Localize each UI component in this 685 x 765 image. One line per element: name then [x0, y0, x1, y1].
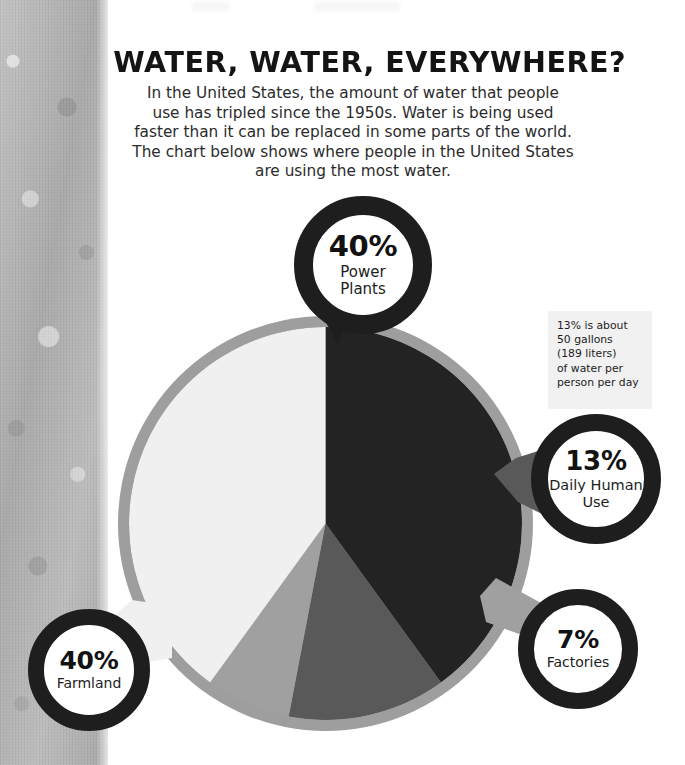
- callout-content-factories: 7% Factories: [518, 589, 638, 709]
- callout-label-line1-daily-human-use: Daily Human: [549, 477, 643, 493]
- pie-disc: [129, 327, 522, 720]
- callout-percent-power-plants: 40%: [329, 232, 398, 261]
- intro-line-3: faster than it can be replaced in some p…: [118, 123, 588, 143]
- callout-percent-daily-human-use: 13%: [565, 448, 626, 474]
- callout-percent-factories: 7%: [557, 627, 599, 652]
- callout-percent-farmland: 40%: [60, 648, 119, 673]
- callout-label-line2-daily-human-use: Use: [549, 494, 643, 510]
- callout-power-plants[interactable]: 40% Power Plants: [294, 196, 432, 334]
- intro-line-5: are using the most water.: [118, 162, 588, 182]
- note-line-2: 50 gallons: [557, 333, 645, 347]
- callout-farmland[interactable]: 40% Farmland: [28, 609, 150, 731]
- page-title: WATER, WATER, EVERYWHERE?: [113, 48, 592, 77]
- callout-label-line1-power-plants: Power: [340, 264, 386, 281]
- callout-label-power-plants: Power Plants: [340, 264, 386, 298]
- pie-chart: [118, 316, 533, 731]
- note-line-1: 13% is about: [557, 319, 645, 333]
- callout-label-factories: Factories: [547, 655, 610, 671]
- note-line-4: of water per: [557, 362, 645, 376]
- top-edge-artifact: [192, 2, 432, 11]
- intro-line-4: The chart below shows where people in th…: [118, 143, 588, 163]
- infographic-canvas: WATER, WATER, EVERYWHERE? In the United …: [0, 0, 685, 765]
- callout-content-farmland: 40% Farmland: [28, 609, 150, 731]
- note-line-5: person per day: [557, 376, 645, 390]
- intro-line-1: In the United States, the amount of wate…: [118, 84, 588, 104]
- note-box-daily-use: 13% is about 50 gallons (189 liters) of …: [548, 311, 652, 409]
- note-line-3: (189 liters): [557, 347, 645, 361]
- pie-slices: [129, 327, 522, 720]
- callout-factories[interactable]: 7% Factories: [518, 589, 638, 709]
- callout-label-farmland: Farmland: [57, 676, 122, 692]
- intro-line-2: use has tripled since the 1950s. Water i…: [118, 104, 588, 124]
- callout-content-daily-human-use: 13% Daily Human Use: [531, 414, 661, 544]
- intro-paragraph: In the United States, the amount of wate…: [118, 84, 588, 182]
- callout-label-line2-power-plants: Plants: [340, 281, 386, 298]
- header: WATER, WATER, EVERYWHERE? In the United …: [118, 48, 588, 182]
- callout-daily-human-use[interactable]: 13% Daily Human Use: [531, 414, 661, 544]
- callout-content-power-plants: 40% Power Plants: [294, 196, 432, 334]
- callout-label-daily-human-use: Daily Human Use: [549, 477, 643, 509]
